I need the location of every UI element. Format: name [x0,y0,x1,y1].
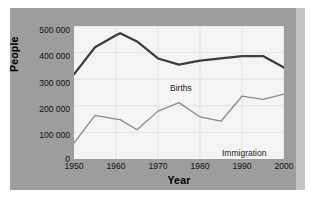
x-tick-label: 1960 [99,161,133,171]
chart-figure: People 500 000 400 000 300 000 200 000 1… [0,0,313,205]
x-axis-tick-labels: 1950 1960 1970 1980 1990 2000 [0,161,313,175]
x-tick-label: 1970 [141,161,175,171]
x-tick-label: 1950 [57,161,91,171]
x-tick-label: 2000 [267,161,301,171]
y-tick-label: 200 000 [24,105,70,114]
x-axis-title: Year [74,174,284,186]
series-label-births: Births [170,83,192,93]
series-line-immigration [74,94,284,143]
series-line-births [74,33,284,74]
y-tick-label: 500 000 [24,26,70,35]
y-axis-title: People [8,36,20,72]
series-label-immigration: Immigration [222,148,266,158]
y-tick-label: 100 000 [24,131,70,140]
y-tick-label: 400 000 [24,52,70,61]
x-tick-label: 1990 [225,161,259,171]
plot-area: Births Immigration [74,26,284,159]
x-tick-label: 1980 [183,161,217,171]
y-tick-label: 300 000 [24,79,70,88]
